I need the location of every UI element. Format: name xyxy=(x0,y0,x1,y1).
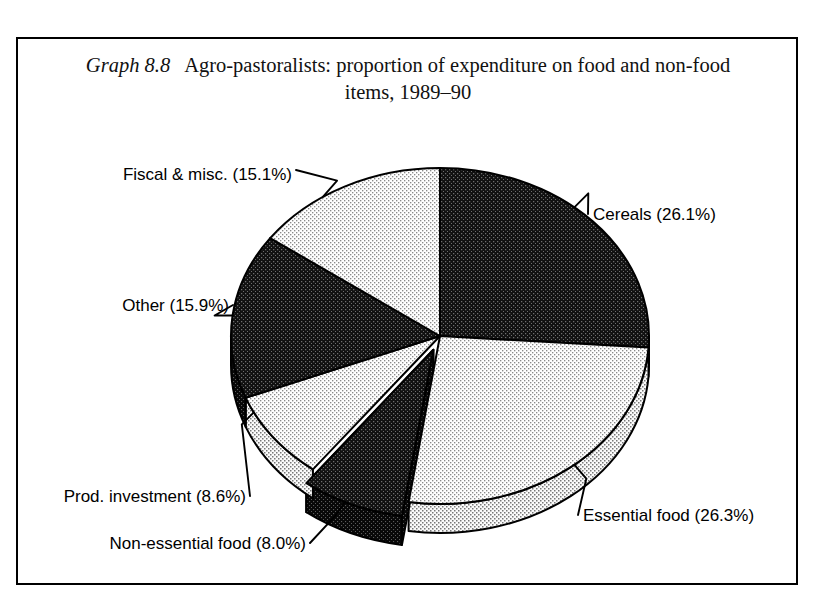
slice-label-non-essential-food: Non-essential food (8.0%) xyxy=(109,534,306,553)
pie-slice-essential-food[interactable]: Essential food (26.3%) xyxy=(409,336,649,504)
slice-label-cereals: Cereals (26.1%) xyxy=(593,205,716,224)
pie-chart: Cereals (26.1%)Essential food (26.3%)Non… xyxy=(0,0,819,609)
slice-label-essential-food: Essential food (26.3%) xyxy=(583,506,754,525)
pie-slice-cereals[interactable]: Cereals (26.1%) xyxy=(440,168,649,348)
slice-label-prod-investment: Prod. investment (8.6%) xyxy=(64,487,246,506)
slice-label-other: Other (15.9%) xyxy=(122,296,229,315)
figure-root: Graph 8.8Agro-pastoralists: proportion o… xyxy=(0,0,819,609)
slice-label-fiscal-misc: Fiscal & misc. (15.1%) xyxy=(123,165,292,184)
